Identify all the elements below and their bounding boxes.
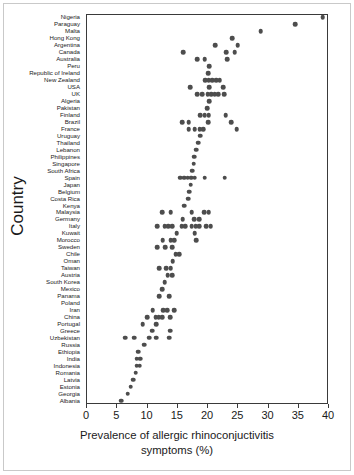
data-point [187,189,192,194]
data-point [222,92,227,97]
data-point [207,113,212,118]
data-point [197,224,202,229]
data-point [206,120,211,125]
data-point [157,294,162,299]
data-point [136,349,141,354]
data-point [196,141,201,146]
plot-area [86,14,328,404]
data-point [192,154,197,159]
x-tick-mark [298,404,299,408]
data-point [201,127,206,132]
x-tick-label: 20 [201,409,213,421]
data-point [181,217,186,222]
data-point [206,71,211,76]
data-point [194,238,199,243]
data-point [207,85,212,90]
data-point [168,266,173,271]
data-point [147,336,152,341]
data-point [154,336,159,341]
data-point [163,245,168,250]
x-tick-label: 5 [113,409,119,421]
data-point [233,50,238,55]
x-axis-ticks: 0510152025303540 [86,404,328,426]
data-point [225,57,230,62]
data-point [207,210,212,215]
data-point [202,57,207,62]
data-point [180,120,185,125]
data-point [167,294,172,299]
data-point [168,329,173,334]
data-point [188,85,193,90]
x-tick-label: 40 [322,409,334,421]
data-point [145,315,150,320]
data-point [187,127,192,132]
data-point [216,92,221,97]
data-point [131,377,136,382]
data-point [213,43,218,48]
data-point [320,15,325,20]
data-point [174,231,179,236]
data-point [155,245,160,250]
x-tick-mark [147,404,148,408]
data-point [200,92,205,97]
x-tick-mark [207,404,208,408]
data-point [188,182,193,187]
x-tick-mark [177,404,178,408]
data-point [190,168,195,173]
x-tick-label: 35 [292,409,304,421]
data-point [142,343,147,348]
data-point [123,336,128,341]
data-point [138,356,143,361]
x-tick-label: 15 [171,409,183,421]
data-point [170,259,175,264]
data-point [194,148,199,153]
data-point [133,370,138,375]
data-point [223,113,228,118]
y-axis-tick-labels: NigeriaParaguayMaltaHong KongArgentinaCa… [0,14,83,404]
data-point [193,231,198,236]
data-point [259,29,264,34]
data-point [170,273,175,278]
data-point [170,224,175,229]
data-point [236,43,241,48]
data-point [138,363,143,368]
data-point [217,78,222,83]
data-point [207,99,212,104]
x-axis-title: Prevalence of allergic rhinoconjuctiviti… [20,428,334,459]
data-point [229,120,234,125]
data-point [234,127,239,132]
x-tick-label: 25 [231,409,243,421]
data-point [172,308,177,313]
data-point [230,36,235,41]
x-axis-title-line-2: symptoms (%) [20,443,334,458]
data-point [197,217,202,222]
x-tick-label: 10 [140,409,152,421]
data-point [191,161,196,166]
data-point [190,210,195,215]
data-point [160,287,165,292]
data-point [168,315,173,320]
data-point [161,238,166,243]
data-point [202,175,207,180]
data-point [155,224,160,229]
data-point [205,106,210,111]
data-point [195,57,200,62]
data-point [221,85,226,90]
data-point [207,64,212,69]
data-point [177,252,182,257]
x-tick-mark [86,404,87,408]
data-point [125,391,130,396]
data-point [222,175,227,180]
x-tick-mark [237,404,238,408]
scatter-chart-figure: Country NigeriaParaguayMaltaHong KongArg… [0,0,354,475]
x-tick-mark [116,404,117,408]
data-point [183,224,188,229]
y-axis-label: Albania [60,397,80,403]
data-point [208,224,213,229]
data-point [187,120,192,125]
data-point [119,398,124,403]
data-point [172,238,177,243]
data-point [160,315,165,320]
data-point [154,322,159,327]
data-point [170,245,175,250]
